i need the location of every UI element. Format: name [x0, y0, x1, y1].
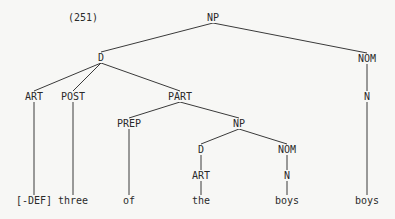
node-leaf-boys-2: boys: [354, 196, 380, 206]
node-leaf-def: [-DEF]: [15, 196, 53, 206]
node-nom-top: NOM: [357, 54, 377, 64]
edge-np-mid-nom-mid: [239, 129, 287, 144]
node-art-left: ART: [24, 92, 44, 102]
node-leaf-of: of: [122, 196, 136, 206]
node-np-mid: NP: [232, 119, 246, 129]
edge-part-np-mid: [180, 102, 239, 118]
node-leaf-the: the: [191, 196, 211, 206]
node-np-root: NP: [206, 13, 220, 23]
node-d-top: D: [97, 53, 105, 63]
edge-np-root-nom-top: [213, 23, 367, 53]
edge-np-root-d-top: [101, 23, 213, 52]
node-nom-mid: NOM: [277, 145, 297, 155]
node-art-mid: ART: [191, 171, 211, 181]
edge-np-mid-d-mid: [201, 129, 239, 144]
node-prep: PREP: [116, 119, 142, 129]
node-n-mid: N: [283, 171, 291, 181]
node-leaf-boys-1: boys: [274, 196, 300, 206]
edge-d-top-art-left: [34, 63, 101, 91]
node-post: POST: [60, 92, 86, 102]
node-part: PART: [167, 92, 193, 102]
example-number: (251): [67, 13, 99, 23]
node-d-mid: D: [197, 145, 205, 155]
tree-edges: [0, 0, 395, 219]
node-n-right: N: [363, 92, 371, 102]
node-leaf-three: three: [57, 196, 89, 206]
edge-d-top-post: [73, 63, 101, 91]
edge-part-prep: [129, 102, 180, 118]
edge-d-top-part: [101, 63, 180, 91]
